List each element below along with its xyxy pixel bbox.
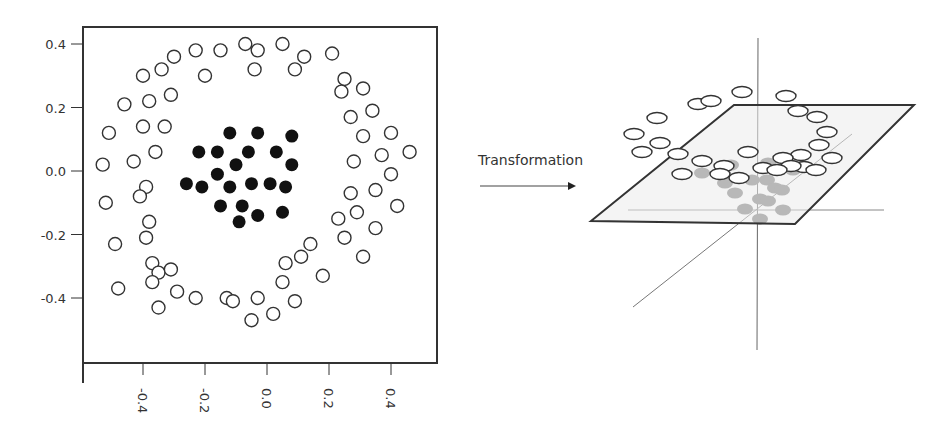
outer-ring-point: [335, 85, 348, 98]
outer-ring-point-3d: [647, 113, 667, 124]
outer-ring-point: [189, 44, 202, 57]
outer-ring-point: [168, 50, 181, 63]
outer-ring-point: [326, 47, 339, 60]
inner-cluster-point: [251, 126, 264, 139]
y-tick-label: -0.4: [41, 291, 66, 306]
outer-ring-point: [99, 196, 112, 209]
outer-ring-point: [109, 238, 122, 251]
outer-ring-point: [344, 187, 357, 200]
right-arrow-icon: [568, 182, 576, 190]
outer-ring-point: [344, 111, 357, 124]
outer-ring-point: [245, 314, 258, 327]
outer-ring-point-3d: [788, 106, 808, 117]
outer-ring-point: [239, 38, 252, 51]
inner-cluster-point: [211, 145, 224, 158]
outer-ring-point-3d: [732, 87, 752, 98]
outer-ring-point-3d: [729, 173, 749, 184]
inner-cluster-point: [233, 215, 246, 228]
outer-ring-point: [288, 295, 301, 308]
outer-ring-point: [137, 69, 150, 82]
outer-ring-point: [152, 301, 165, 314]
y-tick-label: 0.2: [45, 101, 66, 116]
outer-ring-point: [149, 145, 162, 158]
inner-cluster-point: [242, 145, 255, 158]
inner-cluster-point: [270, 145, 283, 158]
outer-ring-point: [118, 98, 131, 111]
outer-ring-point: [366, 104, 379, 117]
y-tick-label: 0.0: [45, 164, 66, 179]
outer-ring-point: [140, 231, 153, 244]
outer-ring-point: [158, 120, 171, 133]
outer-ring-point: [164, 88, 177, 101]
outer-ring-point-3d: [817, 127, 837, 138]
inner-cluster-point: [211, 168, 224, 181]
outer-ring-point: [251, 292, 264, 305]
outer-ring-point: [295, 250, 308, 263]
outer-ring-point: [214, 44, 227, 57]
inner-cluster-point: [264, 177, 277, 190]
outer-ring-point-3d: [701, 96, 721, 107]
outer-ring-point-3d: [776, 91, 796, 102]
outer-ring-point: [164, 263, 177, 276]
outer-ring-point-3d: [738, 147, 758, 158]
outer-ring-point: [338, 72, 351, 85]
outer-ring-point: [288, 63, 301, 76]
outer-ring-point: [137, 120, 150, 133]
outer-ring-point: [276, 276, 289, 289]
transformation-arrow: Transformation: [477, 152, 583, 190]
outer-ring-point: [146, 276, 159, 289]
outer-ring-point: [403, 145, 416, 158]
y-axis: 0.40.20.0-0.2-0.4: [41, 37, 83, 306]
outer-ring-point: [189, 292, 202, 305]
inner-cluster-point: [245, 177, 258, 190]
outer-ring-point: [350, 206, 363, 219]
separating-plane: [591, 105, 914, 224]
inner-cluster-point: [276, 206, 289, 219]
inner-cluster-point: [214, 199, 227, 212]
outer-ring-point: [369, 184, 382, 197]
outer-ring-point-3d: [632, 147, 652, 158]
inner-cluster-point: [251, 209, 264, 222]
inner-cluster-point: [223, 126, 236, 139]
outer-ring-point: [357, 82, 370, 95]
outer-ring-point: [102, 126, 115, 139]
outer-ring-point-3d: [624, 129, 644, 140]
inner-cluster-point: [285, 130, 298, 143]
x-tick-label: 0.0: [259, 388, 274, 409]
outer-ring-point: [385, 168, 398, 181]
x-tick-label: 0.2: [321, 388, 336, 409]
outer-ring-point-3d: [692, 156, 712, 167]
outer-ring-point: [133, 190, 146, 203]
inner-cluster-point: [192, 145, 205, 158]
outer-ring-point: [369, 222, 382, 235]
outer-ring-point: [385, 126, 398, 139]
y-tick-label: 0.4: [45, 37, 66, 52]
outer-ring-point: [357, 250, 370, 263]
figure: 0.40.20.0-0.2-0.4 -0.4-0.20.00.20.4 Tran…: [0, 0, 945, 437]
outer-ring-point-3d: [710, 169, 730, 180]
inner-cluster-point: [223, 180, 236, 193]
left-scatter-plot: 0.40.20.0-0.2-0.4 -0.4-0.20.00.20.4: [41, 27, 437, 413]
outer-ring-point: [357, 130, 370, 143]
outer-ring-point-3d: [668, 149, 688, 160]
outer-ring-point: [279, 257, 292, 270]
outer-ring-point: [143, 215, 156, 228]
x-axis: -0.4-0.20.00.20.4: [135, 363, 398, 413]
inner-cluster-point: [180, 177, 193, 190]
inner-cluster-point: [236, 199, 249, 212]
inner-cluster-point: [279, 180, 292, 193]
outer-ring-point-3d: [822, 153, 842, 164]
inner-cluster-point: [195, 180, 208, 193]
outer-ring-point: [251, 44, 264, 57]
outer-ring-point: [112, 282, 125, 295]
x-tick-label: -0.2: [197, 388, 212, 413]
outer-ring-point: [248, 63, 261, 76]
outer-ring-point-3d: [672, 169, 692, 180]
outer-ring-point: [96, 158, 109, 171]
outer-ring-point: [338, 231, 351, 244]
y-tick-label: -0.2: [41, 228, 66, 243]
x-tick-label: -0.4: [135, 388, 150, 413]
inner-cluster-point: [285, 158, 298, 171]
outer-ring-point-3d: [650, 138, 670, 149]
outer-ring-point: [199, 69, 212, 82]
